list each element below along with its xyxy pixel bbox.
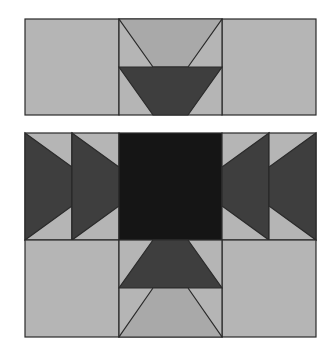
center-black-square [119,133,222,240]
top-strip [25,19,316,115]
top-left-square [25,19,119,115]
quilt-diagram [0,0,332,363]
top-right-square [222,19,316,115]
bottom-left-square [25,240,119,337]
bottom-right-square [222,240,316,337]
main-block [25,133,316,337]
